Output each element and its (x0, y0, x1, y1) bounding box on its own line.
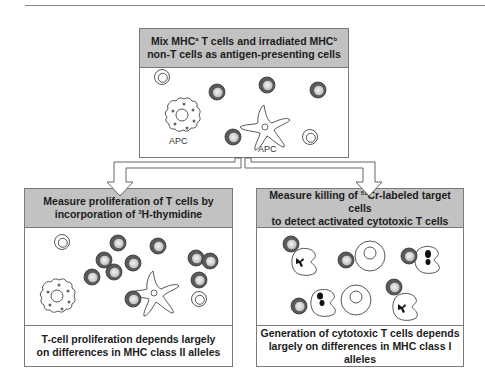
killed-target-cell (292, 248, 316, 275)
arrow-to-right-icon (245, 158, 382, 196)
activated-t-cell (259, 77, 275, 93)
activated-t-cell (202, 253, 218, 269)
resting-t-cell (303, 130, 318, 145)
target-cell (341, 285, 371, 315)
left-panel-cells (40, 235, 218, 317)
activated-t-cell (209, 84, 225, 100)
target-cell (355, 241, 385, 271)
activated-t-cell (125, 255, 141, 271)
resting-t-cell (155, 70, 170, 85)
activated-t-cell (125, 291, 141, 307)
arrow-to-left-icon (107, 158, 241, 196)
right-panel-cells (283, 236, 439, 320)
cytotoxic-t-cell (386, 279, 402, 295)
activated-t-cell (84, 269, 100, 285)
activated-t-cell (110, 235, 126, 251)
macrophage-apc-icon (165, 98, 200, 131)
macrophage-apc-icon (40, 279, 75, 312)
apc-label-right: APC (258, 144, 277, 154)
resting-t-cell (192, 292, 207, 307)
apc-label-left: APC (169, 136, 188, 146)
activated-t-cell (191, 272, 207, 288)
split-arrows (107, 158, 382, 196)
cytotoxic-t-cell (401, 248, 417, 264)
cytotoxic-t-cell (338, 252, 354, 268)
cytotoxic-t-cell (291, 298, 307, 314)
cytotoxic-t-cell (283, 236, 299, 252)
resting-t-cell (55, 235, 70, 250)
activated-t-cell (310, 82, 326, 98)
killed-target-cell (393, 293, 417, 320)
activated-t-cell (225, 129, 241, 145)
activated-t-cell (150, 238, 166, 254)
diagram-artwork (0, 0, 485, 380)
activated-t-cell (106, 264, 122, 280)
activated-t-cell (188, 250, 204, 266)
